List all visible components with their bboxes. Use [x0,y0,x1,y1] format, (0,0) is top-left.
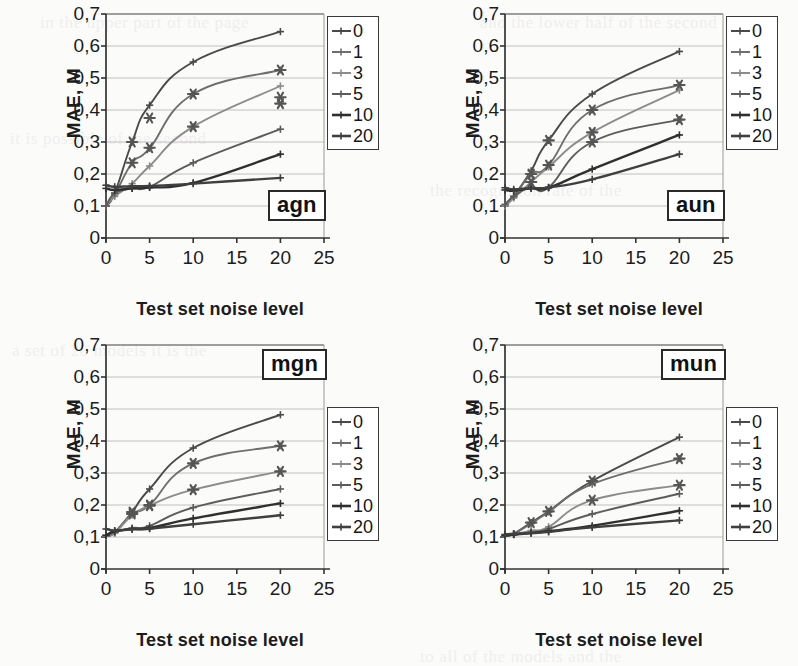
legend-item-0[interactable]: 0 [331,411,373,432]
legend-line-marker-icon [331,457,352,471]
legend-item-label: 5 [751,476,762,494]
legend-line-marker-icon [730,45,751,59]
legend-line-marker-icon [730,129,751,143]
legend-item-label: 5 [352,476,363,494]
legend-line-marker-icon [331,66,352,80]
legend-item-10[interactable]: 10 [730,104,772,125]
chart-panel-agn: MAE, MTest set noise level0,70,60,50,40,… [0,0,399,330]
chart-panel-aun: MAE, MTest set noise level0,70,60,50,40,… [399,0,798,330]
legend-line-marker-icon [730,499,751,513]
legend: 01351020 [327,407,379,541]
legend-item-5[interactable]: 5 [331,83,373,104]
legend-item-1[interactable]: 1 [331,432,373,453]
legend-item-label: 1 [352,43,363,61]
panel-tag-agn: agn [268,190,326,221]
legend-line-marker-icon [331,478,352,492]
scatter-overlay [526,454,685,527]
legend-line-marker-icon [730,436,751,450]
legend: 01351020 [726,16,778,150]
legend-item-label: 5 [352,85,363,103]
legend-item-3[interactable]: 3 [730,453,772,474]
legend-item-label: 20 [352,518,373,536]
series-3 [501,87,683,210]
legend-item-label: 0 [352,413,363,431]
legend-line-marker-icon [730,457,751,471]
legend-item-label: 1 [352,434,363,452]
legend-item-label: 3 [751,64,762,82]
legend-item-20[interactable]: 20 [730,516,772,537]
legend-item-label: 3 [751,455,762,473]
legend: 01351020 [327,16,379,150]
chart-panel-mgn: MAE, MTest set noise level0,70,60,50,40,… [0,331,399,661]
legend-line-marker-icon [331,520,352,534]
legend-item-1[interactable]: 1 [730,41,772,62]
legend-item-label: 1 [751,434,762,452]
legend-item-3[interactable]: 3 [730,62,772,83]
legend-line-marker-icon [730,478,751,492]
legend-item-label: 10 [751,497,772,515]
legend-item-3[interactable]: 3 [331,62,373,83]
legend-line-marker-icon [331,108,352,122]
legend-item-label: 20 [751,127,772,145]
legend-item-label: 20 [751,518,772,536]
legend-line-marker-icon [730,520,751,534]
legend-item-0[interactable]: 0 [730,20,772,41]
legend-item-label: 0 [751,22,762,40]
legend-item-label: 10 [751,106,772,124]
legend-line-marker-icon [331,24,352,38]
legend-item-5[interactable]: 5 [730,83,772,104]
legend-line-marker-icon [331,415,352,429]
legend-item-0[interactable]: 0 [331,20,373,41]
legend-item-5[interactable]: 5 [331,474,373,495]
legend-line-marker-icon [331,87,352,101]
legend-item-label: 3 [352,455,363,473]
legend-item-0[interactable]: 0 [730,411,772,432]
panel-tag-mun: mun [661,349,726,380]
legend-item-label: 5 [751,85,762,103]
legend-line-marker-icon [331,129,352,143]
chart-panel-mun: MAE, MTest set noise level0,70,60,50,40,… [399,331,798,661]
legend-item-10[interactable]: 10 [331,104,373,125]
legend-line-marker-icon [730,87,751,101]
legend-line-marker-icon [331,499,352,513]
legend: 01351020 [726,407,778,541]
legend-item-3[interactable]: 3 [331,453,373,474]
scatter-overlay [127,66,286,168]
legend-item-1[interactable]: 1 [331,41,373,62]
legend-item-label: 0 [352,22,363,40]
panel-tag-aun: aun [667,190,725,221]
legend-item-20[interactable]: 20 [730,125,772,146]
legend-item-label: 10 [352,106,373,124]
scatter-overlay [526,81,685,187]
legend-line-marker-icon [331,436,352,450]
panel-tag-mgn: mgn [262,349,327,380]
legend-item-20[interactable]: 20 [331,125,373,146]
legend-item-10[interactable]: 10 [331,495,373,516]
legend-line-marker-icon [331,45,352,59]
legend-item-label: 1 [751,43,762,61]
legend-item-label: 3 [352,64,363,82]
legend-line-marker-icon [730,24,751,38]
legend-line-marker-icon [730,415,751,429]
legend-item-10[interactable]: 10 [730,495,772,516]
legend-item-1[interactable]: 1 [730,432,772,453]
legend-item-label: 20 [352,127,373,145]
legend-line-marker-icon [730,66,751,80]
legend-line-marker-icon [730,108,751,122]
legend-item-5[interactable]: 5 [730,474,772,495]
legend-item-label: 10 [352,497,373,515]
legend-item-label: 0 [751,413,762,431]
legend-item-20[interactable]: 20 [331,516,373,537]
